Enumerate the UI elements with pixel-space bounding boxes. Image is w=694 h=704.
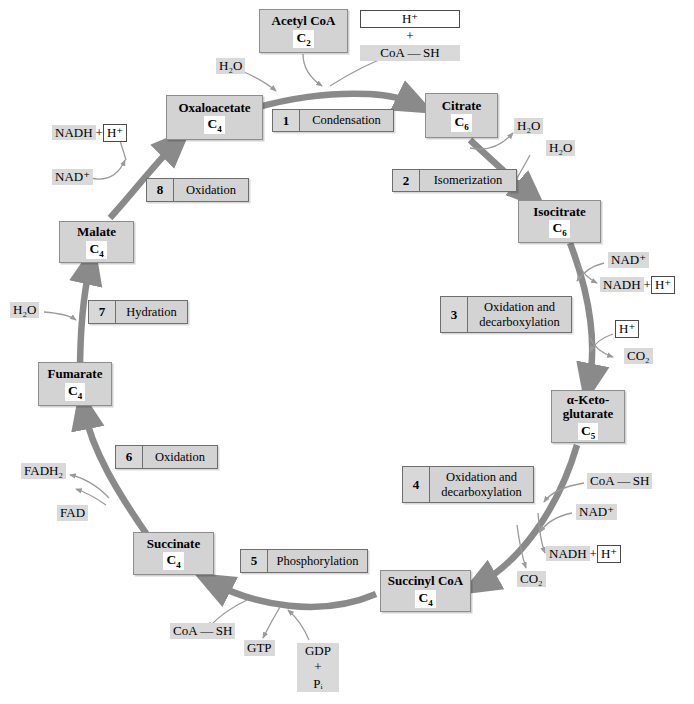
molecule-nadh-step3: NADH <box>600 277 644 292</box>
metabolite-name-line2: glutarate <box>563 407 614 422</box>
molecule-h2o-isocitrate-in: H₂O <box>546 140 575 156</box>
metabolite-malate[interactable]: Malate C4 <box>59 221 134 263</box>
product-group-nadh-hplus-step4: NADH+H⁺ <box>546 545 621 563</box>
step-label: Oxidation <box>143 446 217 468</box>
step-number: 3 <box>441 297 468 332</box>
molecule-label: H₂O <box>13 302 36 317</box>
arrow-nadh-out-step4 <box>538 513 545 553</box>
metabolite-name: Acetyl CoA <box>272 14 336 29</box>
arrow-acetylcoa-in <box>303 54 322 86</box>
molecule-gdp: GDP <box>297 643 339 659</box>
step-box-8-oxidation[interactable]: 8 Oxidation <box>146 178 249 202</box>
step-box-7-hydration[interactable]: 7 Hydration <box>88 300 188 324</box>
metabolite-name: Succinyl CoA <box>388 574 463 589</box>
molecule-label: H₂O <box>219 58 242 73</box>
arrow-succinate-to-fumarate <box>84 410 150 539</box>
molecule-hplus-boxed-step8: H⁺ <box>103 124 127 142</box>
molecule-hplus-boxed-step4: H⁺ <box>597 545 621 563</box>
molecule-coa-sh: CoA — SH <box>360 45 460 61</box>
arrow-nadh-out-step3 <box>578 264 597 283</box>
arrow-nad-in-step8 <box>90 160 125 179</box>
molecule-label: NAD⁺ <box>579 504 614 519</box>
metabolite-carbon-count: C5 <box>578 423 598 441</box>
molecule-co2-step4: CO₂ <box>517 571 546 587</box>
molecule-hplus-boxed-step3: H⁺ <box>651 276 675 294</box>
metabolite-acetyl-coa[interactable]: Acetyl CoA C2 <box>259 9 348 53</box>
molecule-label: H₂O <box>549 140 572 155</box>
molecule-plus-sign: + <box>360 28 460 44</box>
arrow-succinylcoa-to-succinate <box>213 583 376 607</box>
molecule-fad: FAD <box>57 505 88 521</box>
step-box-1-condensation[interactable]: 1 Condensation <box>272 109 394 132</box>
metabolite-name: Isocitrate <box>533 205 586 220</box>
molecule-label: FADH₂ <box>24 463 63 478</box>
molecule-coa-sh-step4: CoA — SH <box>587 473 652 489</box>
step-box-3-oxidation-decarboxylation[interactable]: 3 Oxidation and decarboxylation <box>440 296 572 333</box>
step-box-4-oxidation-decarboxylation[interactable]: 4 Oxidation and decarboxylation <box>402 466 534 503</box>
arrow-hplus-in-step3 <box>590 334 613 352</box>
molecule-plus-sign-gdp: + <box>297 659 339 675</box>
molecule-label: H₂O <box>517 118 540 133</box>
metabolite-carbon-count: C6 <box>451 114 471 132</box>
arrow-gtp-out-step5 <box>263 607 280 638</box>
molecule-gtp: GTP <box>244 640 275 656</box>
molecule-h2o-condensation: H₂O <box>216 58 245 74</box>
molecule-nadh-step8: NADH <box>52 125 96 140</box>
metabolite-citrate[interactable]: Citrate C6 <box>425 93 498 138</box>
product-group-nadh-hplus-step3: NADH+H⁺ <box>600 276 675 294</box>
substrate-group-gdp-pi: GDP + Pᵢ <box>297 643 339 692</box>
metabolite-carbon-count: C4 <box>65 383 85 401</box>
step-number: 2 <box>393 170 420 191</box>
molecule-plus-sign-step4: + <box>590 546 597 561</box>
molecule-label: CoA — SH <box>590 473 649 488</box>
step-number: 1 <box>273 110 300 131</box>
molecule-plus-sign-step8: + <box>96 125 103 140</box>
step-box-2-isomerization[interactable]: 2 Isomerization <box>392 169 517 192</box>
step-number: 8 <box>147 179 174 201</box>
molecule-hplus-boxed: H⁺ <box>615 320 639 338</box>
arrow-h2o-in-hydration <box>44 312 76 320</box>
step-number: 4 <box>403 467 430 502</box>
metabolite-isocitrate[interactable]: Isocitrate C6 <box>518 200 601 243</box>
molecule-label: NAD⁺ <box>611 252 646 267</box>
molecule-hplus-boxed: H⁺ <box>360 10 460 28</box>
metabolite-carbon-count: C4 <box>415 590 435 608</box>
arrow-fadh2-out-step6 <box>70 475 109 498</box>
molecule-co2-step3: CO₂ <box>624 348 653 364</box>
metabolite-name: Citrate <box>442 99 482 114</box>
step-number: 7 <box>89 301 116 323</box>
arrow-co2-out-step3 <box>590 338 613 357</box>
step-box-5-phosphorylation[interactable]: 5 Phosphorylation <box>240 549 368 573</box>
step-label: Oxidation and decarboxylation <box>430 467 533 502</box>
molecule-label: FAD <box>60 505 85 520</box>
metabolite-fumarate[interactable]: Fumarate C4 <box>38 362 112 406</box>
metabolite-carbon-count: C4 <box>204 116 224 134</box>
molecule-coa-sh-step5: CoA — SH <box>170 623 235 639</box>
step-label: Isomerization <box>420 170 516 191</box>
molecule-pi: Pᵢ <box>297 676 339 692</box>
step-label: Oxidation <box>174 179 248 201</box>
molecule-nadh-step4: NADH <box>546 546 590 561</box>
step-label: Condensation <box>300 110 393 131</box>
metabolite-carbon-count: C2 <box>293 30 313 48</box>
cycle-arrow-layer <box>0 0 694 704</box>
molecule-nad-plus-step8: NAD⁺ <box>52 169 93 185</box>
product-group-coash-hplus: H⁺ + CoA — SH <box>360 10 460 61</box>
arrow-nad-in-step4 <box>540 513 572 532</box>
metabolite-carbon-count: C4 <box>163 552 183 570</box>
metabolite-name: Fumarate <box>48 367 103 382</box>
arrow-co2-out-step4 <box>517 525 526 568</box>
arrow-isocitrate-to-akg <box>570 243 592 383</box>
metabolite-succinyl-coa[interactable]: Succinyl CoA C4 <box>380 570 471 612</box>
molecule-label: CO₂ <box>627 348 650 363</box>
metabolite-oxaloacetate[interactable]: Oxaloacetate C4 <box>166 95 263 140</box>
step-label: Hydration <box>116 301 187 323</box>
step-box-6-oxidation[interactable]: 6 Oxidation <box>115 445 218 469</box>
metabolite-name: Succinate <box>147 537 200 552</box>
molecule-label: NAD⁺ <box>55 169 90 184</box>
molecule-hplus-step3-co2: H⁺ <box>615 320 639 338</box>
metabolite-succinate[interactable]: Succinate C4 <box>133 532 214 575</box>
molecule-label: CoA — SH <box>173 623 232 638</box>
metabolite-alpha-ketoglutarate[interactable]: α-Keto- glutarate C5 <box>551 390 625 443</box>
molecule-nad-plus-step4: NAD⁺ <box>576 504 617 520</box>
